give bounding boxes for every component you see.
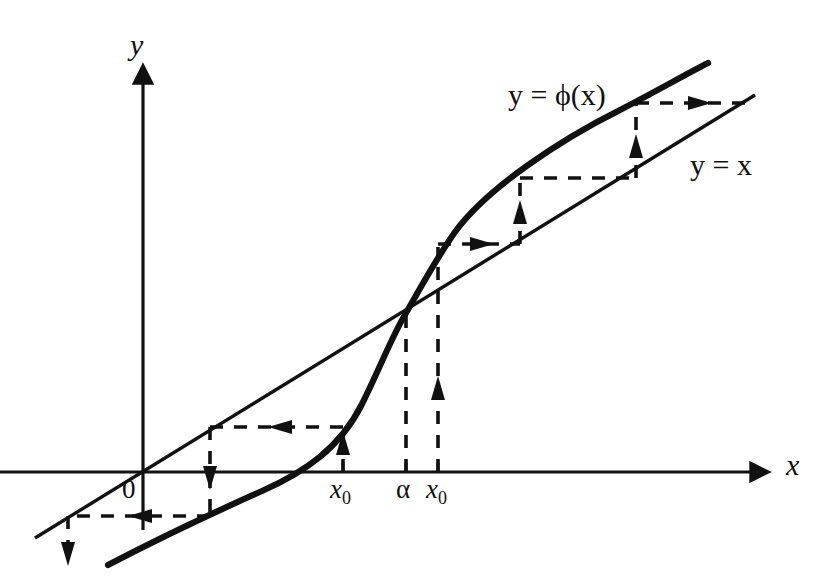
arrow-up-alpha-guide xyxy=(431,376,445,400)
y-axis-label: y xyxy=(130,30,143,60)
cobweb-diagram-figure: y x 0 y = ϕ(x) y = x x0 α x0 xyxy=(0,0,828,586)
arrow-left-step2 xyxy=(268,420,292,434)
tick-label-x0-right-sub: 0 xyxy=(438,488,447,508)
cobweb-left-group xyxy=(66,427,343,546)
arrow-up-step3 xyxy=(629,134,643,158)
tick-label-x0-left: x0 xyxy=(330,476,351,507)
phi-curve-label: y = ϕ(x) xyxy=(508,80,606,110)
x-axis-label: x xyxy=(786,450,799,480)
arrow-down-step5 xyxy=(61,542,75,566)
arrow-down-step3 xyxy=(203,466,217,490)
identity-line-label: y = x xyxy=(690,150,752,180)
tick-label-alpha-text: α xyxy=(396,474,410,504)
tick-label-x0-right: x0 xyxy=(426,476,447,507)
arrow-right-step4 xyxy=(688,96,712,110)
arrow-right-step1 xyxy=(470,237,494,251)
cobweb-right-arrowheads xyxy=(431,96,712,400)
tick-label-x0-left-sub: 0 xyxy=(342,488,351,508)
tick-label-alpha: α xyxy=(396,476,410,503)
cobweb-left-arrowheads xyxy=(61,420,350,566)
tick-label-x0-left-text: x xyxy=(330,474,342,504)
tick-label-x0-right-text: x xyxy=(426,474,438,504)
axis-group xyxy=(0,66,768,530)
arrow-up-step2 xyxy=(513,200,527,224)
origin-label: 0 xyxy=(122,476,136,503)
arrow-left-step4 xyxy=(128,509,152,523)
